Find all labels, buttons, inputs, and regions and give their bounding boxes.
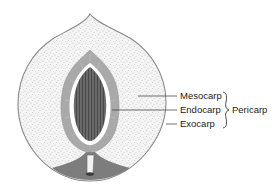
stem-base xyxy=(86,172,94,176)
fruit-cross-section-illustration xyxy=(0,0,275,193)
pericarp-label: Pericarp xyxy=(232,105,267,115)
exocarp-label: Exocarp xyxy=(180,119,215,129)
endocarp-label: Endocarp xyxy=(180,105,221,115)
drupe-diagram: Mesocarp Endocarp Exocarp Pericarp xyxy=(0,0,275,193)
stem xyxy=(87,155,94,175)
pericarp-brace xyxy=(223,92,229,128)
mesocarp-label: Mesocarp xyxy=(180,91,222,101)
